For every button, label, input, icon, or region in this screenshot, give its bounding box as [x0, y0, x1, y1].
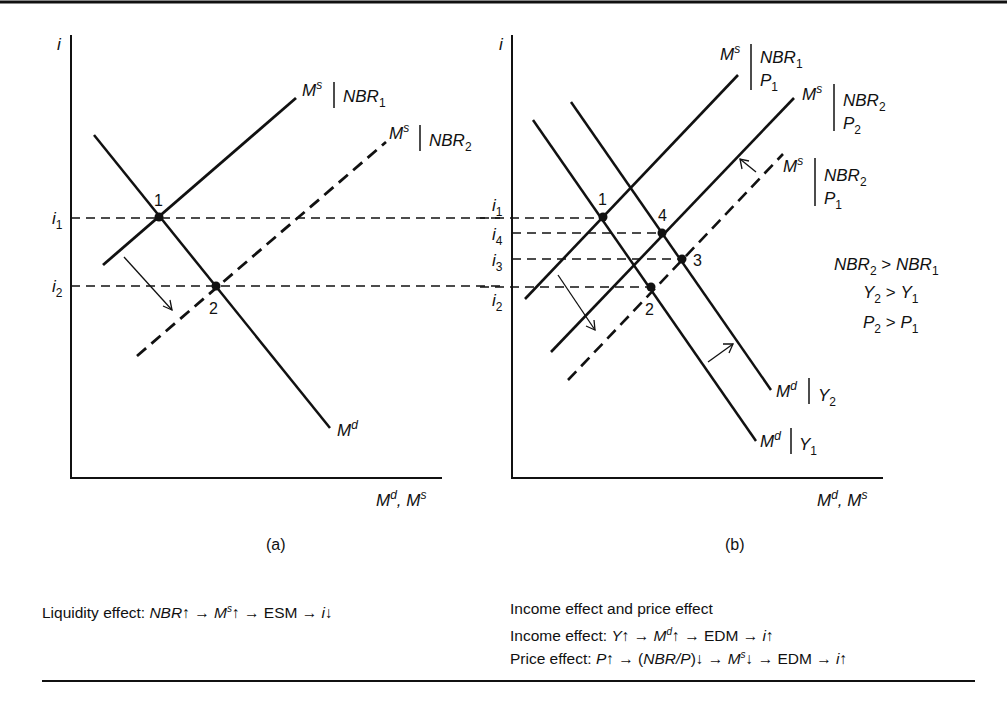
- svg-text:NBR1: NBR1: [760, 48, 803, 71]
- svg-text:P1: P1: [824, 189, 842, 212]
- svg-text:P1: P1: [760, 71, 778, 94]
- svg-text:2: 2: [209, 300, 218, 317]
- md-y1-line: [533, 120, 756, 441]
- point-1: [599, 213, 608, 222]
- svg-text:1: 1: [598, 191, 607, 208]
- svg-text:NBR2: NBR2: [843, 91, 886, 114]
- svg-text:3: 3: [693, 252, 702, 269]
- svg-text:Ms: Ms: [720, 42, 740, 64]
- ms-nbr2-p1-line: [568, 154, 783, 380]
- svg-text:P2: P2: [843, 114, 861, 137]
- svg-text:Md: Md: [776, 379, 797, 401]
- supply-shift-arrow: [558, 275, 595, 330]
- svg-text:Y2: Y2: [818, 386, 836, 409]
- point-4: [658, 229, 667, 238]
- svg-text:Ms: Ms: [802, 82, 822, 104]
- price-effect-text: Price effect: P↑ → (NBR/P)↓ → Ms↓ → EDM …: [510, 645, 847, 668]
- svg-text:1: 1: [154, 192, 163, 209]
- svg-text:Y1: Y1: [799, 435, 817, 458]
- tick-i2: i2: [52, 277, 63, 300]
- income-effect-text: Income effect: Y↑ → Md↑ → EDM → i↑: [510, 622, 774, 645]
- ms-nbr2-label: Ms: [389, 121, 409, 143]
- x-axis-label: Md, Ms: [376, 488, 426, 510]
- svg-text:NBR2: NBR2: [429, 131, 472, 154]
- x-axis-label: Md, Ms: [817, 488, 867, 510]
- svg-text:NBR2: NBR2: [824, 166, 867, 189]
- svg-text:4: 4: [658, 207, 667, 224]
- svg-text:P2 > P1: P2 > P1: [863, 313, 919, 336]
- point-2: [212, 282, 221, 291]
- panel-a: i Md, Ms i1 i2 Ms NBR1 Ms NBR2 Md 1 2 (a…: [52, 35, 500, 553]
- svg-text:Ms: Ms: [783, 154, 803, 176]
- y-axis-label: i: [499, 35, 504, 54]
- tick-i1: i1: [52, 209, 63, 232]
- y-axis-label: i: [57, 35, 62, 54]
- shift-arrow: [124, 257, 172, 310]
- caption-a: (a): [266, 536, 286, 553]
- panel-b: i Md, Ms i1 i4 i3 i2 Ms NBR1 P1 Ms NBR2 …: [480, 35, 939, 553]
- point-3: [678, 255, 687, 264]
- tick-i4: i4: [492, 225, 503, 248]
- point-2: [647, 283, 656, 292]
- tick-i1: i1: [492, 196, 503, 219]
- caption-b: (b): [725, 536, 745, 553]
- ms-nbr1-label: Ms: [302, 78, 322, 100]
- tick-i2: i2: [492, 291, 503, 314]
- svg-text:Y2 > Y1: Y2 > Y1: [863, 283, 919, 306]
- liquidity-effect-text: Liquidity effect: NBR↑ → Ms↑ → ESM → i↓: [42, 599, 333, 622]
- tick-i3: i3: [492, 251, 503, 274]
- ms-nbr2-p2-line: [551, 98, 794, 352]
- svg-text:NBR2 > NBR1: NBR2 > NBR1: [834, 255, 939, 278]
- income-price-title: Income effect and price effect: [510, 599, 713, 618]
- svg-text:2: 2: [645, 301, 654, 318]
- md-line: [94, 135, 330, 428]
- md-label: Md: [337, 418, 358, 440]
- ms-nbr2-line: [137, 142, 386, 356]
- svg-text:NBR1: NBR1: [343, 87, 386, 110]
- svg-text:Md: Md: [760, 429, 781, 451]
- point-1: [155, 213, 164, 222]
